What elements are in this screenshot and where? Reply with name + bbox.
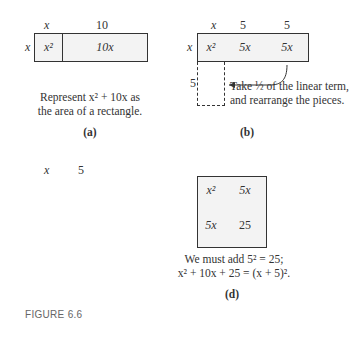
panel-label-a: (a) [70, 126, 110, 138]
cell-x-squared: x² [197, 176, 225, 205]
cell-x-squared: x² [34, 33, 63, 62]
top-label-5a: 5 [240, 18, 246, 33]
dashed-target-region [197, 62, 225, 106]
cell-25: 25 [224, 204, 267, 248]
caption-a-line1: Represent x² + 10x as [30, 91, 150, 104]
figure-caption: FIGURE 6.6 [25, 309, 82, 320]
side-label-x: x [25, 40, 30, 55]
cell-5x-top: 5x [224, 176, 267, 205]
panel-label-b: (b) [227, 126, 267, 138]
cell-10x: 10x [62, 33, 148, 62]
top-label-10: 10 [96, 18, 108, 33]
cell-5x-b: 5x [266, 33, 309, 62]
side-label-5: 5 [190, 76, 196, 91]
caption-b-line2: and rearrange the pieces. [230, 94, 344, 107]
top-label-5b: 5 [284, 18, 290, 33]
cell-5x-a: 5x [224, 33, 267, 62]
caption-b-line1: Take ½ of the linear term, [230, 80, 349, 93]
top-label-x: x [211, 18, 216, 33]
top-label-x: x [44, 163, 49, 178]
caption-d-line2: x² + 10x + 25 = (x + 5)². [170, 267, 298, 280]
cell-5x-left: 5x [197, 204, 225, 248]
caption-d-line1: We must add 5² = 25; [176, 253, 292, 266]
caption-a-line2: the area of a rectangle. [30, 105, 150, 118]
panel-label-d: (d) [212, 288, 252, 300]
top-label-5: 5 [78, 163, 84, 178]
top-label-x: x [44, 18, 49, 33]
cell-x-squared: x² [197, 33, 225, 62]
side-label-x: x [187, 40, 192, 55]
